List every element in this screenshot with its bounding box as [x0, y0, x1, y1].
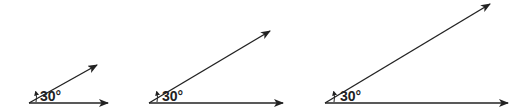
angle-label: 30°	[40, 88, 61, 104]
angle-label: 30°	[162, 88, 183, 104]
angle-diagram-medium: 30°	[149, 31, 283, 104]
angle-diagram-large: 30°	[325, 4, 508, 104]
angle-label: 30°	[340, 88, 361, 104]
angle-arc-arrow-icon	[36, 93, 37, 102]
angle-arc-arrow-icon	[334, 93, 335, 102]
angle-diagrams: 30° 30° 30°	[0, 0, 531, 111]
angle-diagram-small: 30°	[29, 65, 108, 104]
angle-arc-arrow-icon	[157, 93, 158, 102]
